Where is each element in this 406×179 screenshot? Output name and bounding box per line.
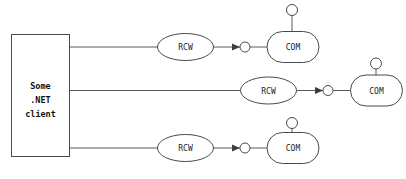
provided-interface-lollipop-icon-bottom [287,118,298,129]
client-label-line3: client [25,109,56,119]
socket-circle-icon-bottom [240,143,250,153]
rcw-label-middle: RCW [261,87,276,96]
rcw-label-top: RCW [178,43,193,52]
com-label-top: COM [286,43,301,52]
rcw-label-bottom: RCW [178,144,193,153]
provided-interface-lollipop-icon-top [287,5,298,16]
arrowhead-right-icon-middle [315,87,323,94]
client-label-line2: .NET [30,95,50,105]
com-label-bottom: COM [286,144,301,153]
arrowhead-right-icon-bottom [232,145,240,152]
client-label-line1: Some [30,81,50,91]
socket-circle-icon-middle [323,86,333,96]
arrowhead-right-icon-top [232,44,240,51]
provided-interface-lollipop-icon-middle [371,58,382,69]
diagram-canvas: Some .NET client RCW RCW RCW COM COM COM [0,0,406,179]
socket-circle-icon-top [240,42,250,52]
diagram-surface: Some .NET client RCW RCW RCW COM COM COM [0,0,406,179]
com-label-middle: COM [369,87,384,96]
